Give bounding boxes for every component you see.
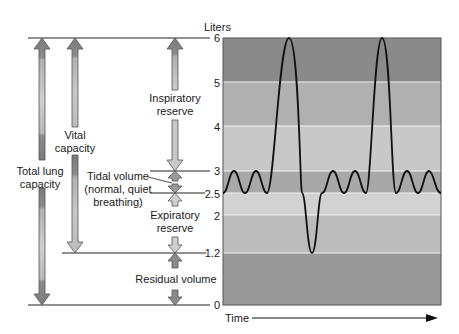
tick-1-2: 1.2 (205, 247, 220, 259)
tick-2: 2 (214, 210, 220, 222)
tick-0: 0 (214, 299, 220, 311)
tidal-volume-label-3: breathing) (93, 196, 143, 208)
x-axis-label: Time (225, 312, 249, 324)
inspiratory-reserve-label-1: Inspiratory (149, 92, 201, 104)
time-arrow-head-icon (426, 314, 438, 322)
band-inspiratory-mid (223, 82, 441, 126)
expiratory-reserve-label-2: reserve (157, 222, 194, 234)
tidal-volume-label-1: Tidal volume (87, 170, 149, 182)
band-tidal (223, 171, 441, 193)
tick-4: 4 (214, 121, 220, 133)
tick-5: 5 (214, 77, 220, 89)
total-lung-capacity-label-2: capacity (20, 178, 61, 190)
lung-volume-diagram: Liters 6 5 4 3 2.5 2 1.2 0 Total lung ca… (0, 0, 459, 334)
band-residual (223, 253, 441, 305)
band-expiratory-upper (223, 193, 441, 215)
expiratory-reserve-label-1: Expiratory (150, 209, 200, 221)
tidal-volume-label-2: (normal, quiet (84, 183, 151, 195)
band-inspiratory-low (223, 126, 441, 171)
band-inspiratory-upper (223, 38, 441, 82)
total-lung-capacity-label-1: Total lung (16, 165, 63, 177)
inspiratory-reserve-label-2: reserve (157, 105, 194, 117)
tidal-volume-arrows (168, 171, 182, 193)
band-expiratory-lower (223, 215, 441, 253)
residual-volume-label: Residual volume (135, 273, 216, 285)
tick-3: 3 (214, 165, 220, 177)
vital-capacity-label-1: Vital (64, 129, 85, 141)
tick-6: 6 (214, 32, 220, 44)
vital-capacity-label-2: capacity (55, 142, 96, 154)
tick-2-5: 2.5 (205, 188, 220, 200)
